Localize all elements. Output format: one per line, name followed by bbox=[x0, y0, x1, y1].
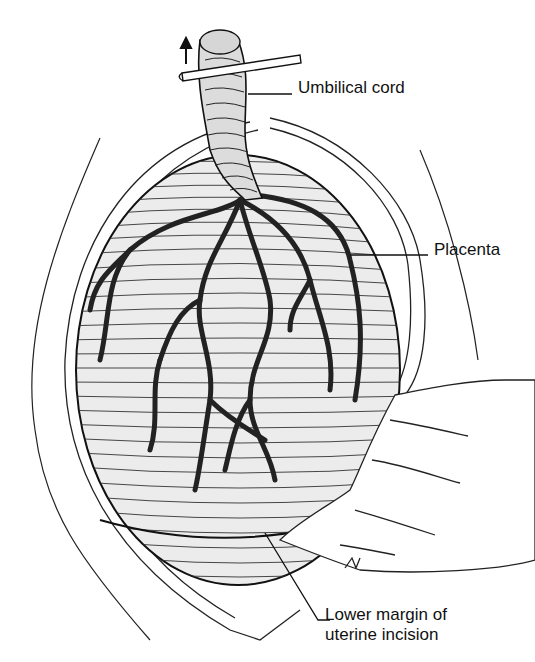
label-placenta: Placenta bbox=[434, 240, 500, 260]
placenta-illustration bbox=[0, 0, 535, 662]
label-umbilical-cord: Umbilical cord bbox=[298, 78, 405, 98]
label-lower-margin-line1: Lower margin of bbox=[325, 605, 447, 625]
label-lower-margin: Lower margin of uterine incision bbox=[325, 605, 447, 645]
label-lower-margin-line2: uterine incision bbox=[325, 625, 447, 645]
up-arrow-icon bbox=[181, 38, 191, 64]
